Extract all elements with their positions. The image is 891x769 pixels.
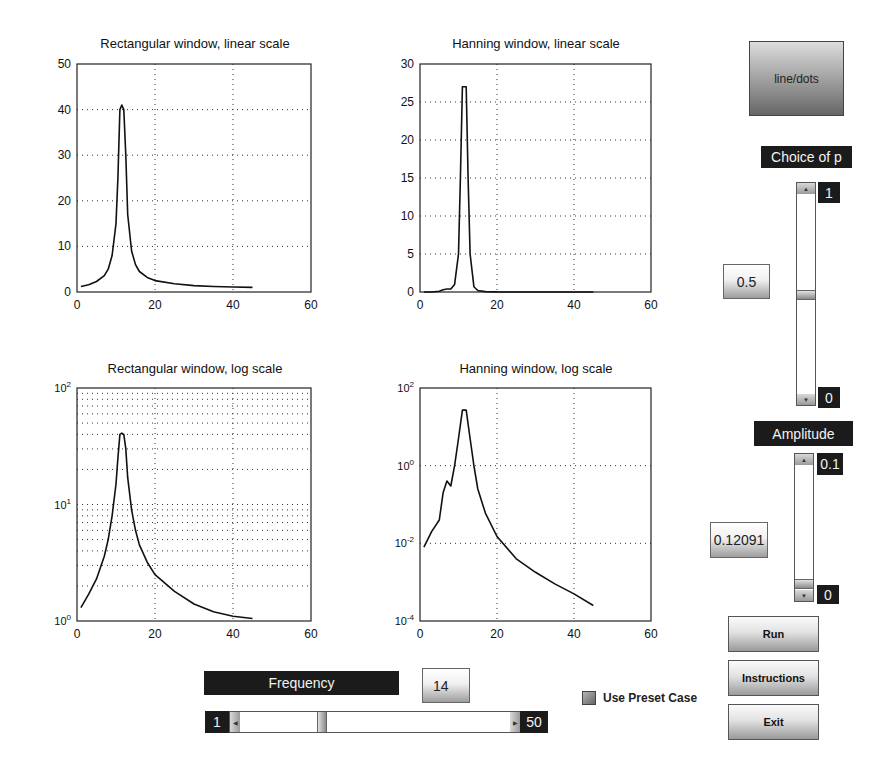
frequency-label: Frequency xyxy=(204,671,399,695)
svg-text:60: 60 xyxy=(644,627,658,641)
slider-up-arrow-icon[interactable]: ▲ xyxy=(795,454,813,465)
svg-text:10-4: 10-4 xyxy=(395,613,415,627)
slider-thumb[interactable] xyxy=(797,290,815,300)
frequency-slider[interactable]: ◀ ▶ xyxy=(229,711,521,733)
use-preset-case-checkbox[interactable] xyxy=(582,691,596,705)
choice-of-p-value: 0.5 xyxy=(723,264,770,299)
frequency-value: 14 xyxy=(422,668,470,703)
exit-button[interactable]: Exit xyxy=(728,704,819,740)
svg-text:0: 0 xyxy=(417,627,424,641)
frequency-min-label: 1 xyxy=(205,711,229,733)
run-button[interactable]: Run xyxy=(728,616,819,652)
slider-down-arrow-icon[interactable]: ▼ xyxy=(795,590,813,601)
amplitude-label: Amplitude xyxy=(754,421,853,446)
amplitude-slider[interactable]: ▲ ▼ xyxy=(794,453,814,602)
choice-of-p-min-label: 0 xyxy=(818,387,840,408)
slider-right-arrow-icon[interactable]: ▶ xyxy=(510,712,520,732)
amplitude-max-label: 0.1 xyxy=(817,453,843,475)
line-dots-button[interactable]: line/dots xyxy=(749,41,844,116)
amplitude-min-label: 0 xyxy=(817,585,839,604)
slider-up-arrow-icon[interactable]: ▲ xyxy=(797,183,815,194)
svg-text:10-2: 10-2 xyxy=(395,535,415,549)
choice-of-p-label: Choice of p xyxy=(761,146,852,168)
slider-down-arrow-icon[interactable]: ▼ xyxy=(797,394,815,405)
svg-text:20: 20 xyxy=(490,627,504,641)
slider-left-arrow-icon[interactable]: ◀ xyxy=(230,712,240,732)
svg-text:100: 100 xyxy=(397,458,414,472)
frequency-max-label: 50 xyxy=(520,711,548,733)
svg-text:40: 40 xyxy=(567,627,581,641)
choice-of-p-slider[interactable]: ▲ ▼ xyxy=(796,182,816,406)
slider-thumb[interactable] xyxy=(795,579,813,589)
svg-text:102: 102 xyxy=(397,380,414,394)
choice-of-p-max-label: 1 xyxy=(818,182,840,203)
amplitude-value: 0.12091 xyxy=(710,522,768,558)
slider-thumb[interactable] xyxy=(317,712,327,732)
instructions-button[interactable]: Instructions xyxy=(728,660,819,696)
use-preset-case-label: Use Preset Case xyxy=(603,691,697,705)
